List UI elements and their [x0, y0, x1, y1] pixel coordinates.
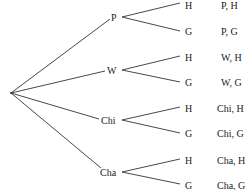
edge-p-g: [122, 17, 180, 31]
outcome-chi-g: Chi, G: [217, 128, 244, 139]
edge-cha-h: [122, 159, 180, 172]
leaf-label-p-g: G: [185, 26, 192, 37]
leaf-label-p-h: H: [185, 0, 192, 11]
edge-p-h: [122, 3, 180, 17]
outcome-w-g: W, G: [221, 77, 242, 88]
edge-root-cha: [11, 93, 101, 168]
outcome-cha-h: Cha, H: [217, 155, 245, 166]
edge-w-h: [122, 56, 180, 70]
leaf-label-w-g: G: [185, 77, 192, 88]
leaf-label-cha-g: G: [185, 180, 192, 190]
tree-diagram: P W Chi Cha H G H G H G H G P, H P, G W,…: [0, 0, 251, 190]
leaf-label-chi-h: H: [185, 103, 192, 114]
edge-chi-h: [122, 107, 180, 120]
root-node: [10, 92, 12, 94]
outcome-w-h: W, H: [221, 52, 242, 63]
node-label-cha: Cha: [100, 167, 117, 178]
outcome-p-h: P, H: [221, 0, 238, 11]
leaf-label-chi-g: G: [185, 128, 192, 139]
node-label-chi: Chi: [101, 115, 116, 126]
edge-root-chi: [11, 93, 99, 119]
outcome-chi-h: Chi, H: [217, 103, 244, 114]
outcome-cha-g: Cha, G: [217, 180, 245, 190]
leaf-label-cha-h: H: [185, 155, 192, 166]
node-label-p: P: [111, 12, 117, 23]
edge-cha-g: [122, 172, 180, 184]
node-label-w: W: [107, 65, 117, 76]
edge-chi-g: [122, 120, 180, 133]
outcome-p-g: P, G: [221, 26, 238, 37]
edge-root-p: [11, 19, 110, 93]
leaf-label-w-h: H: [185, 52, 192, 63]
edge-w-g: [122, 70, 180, 82]
